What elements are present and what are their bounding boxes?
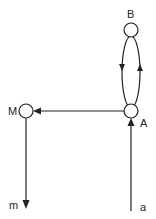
- node-a-label: A: [140, 117, 148, 129]
- terminal-a-label: a: [140, 201, 147, 213]
- node-m-label: M: [8, 105, 17, 117]
- node-a: [124, 104, 138, 118]
- diagram-canvas: B A a M m: [0, 0, 156, 219]
- arrow-up-icon: [137, 64, 143, 71]
- loop-edge-a-b: [122, 36, 140, 108]
- arrow-left-icon: [33, 108, 41, 115]
- arrow-up-icon: [128, 118, 135, 126]
- terminal-m-label: m: [9, 199, 18, 211]
- node-b: [124, 23, 138, 37]
- arrow-down-icon: [119, 64, 125, 71]
- arrow-down-icon: [23, 200, 30, 209]
- node-m: [19, 104, 33, 118]
- node-b-label: B: [127, 8, 134, 20]
